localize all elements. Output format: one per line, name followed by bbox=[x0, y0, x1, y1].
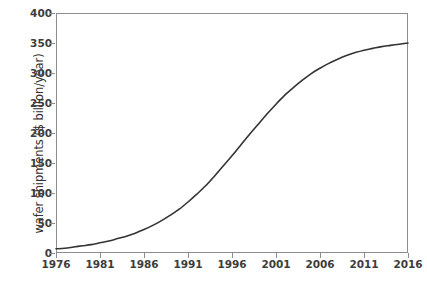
y-tick-mark bbox=[50, 253, 55, 254]
y-tick-mark bbox=[50, 103, 55, 104]
y-axis-ticks: 050100150200250300350400 bbox=[0, 0, 52, 287]
y-tick-label: 250 bbox=[6, 97, 52, 109]
plot-svg bbox=[56, 13, 408, 253]
y-tick-label: 200 bbox=[6, 127, 52, 139]
y-tick-label: 350 bbox=[6, 37, 52, 49]
y-tick-mark bbox=[50, 73, 55, 74]
y-tick-mark bbox=[50, 223, 55, 224]
data-series-line bbox=[56, 43, 408, 249]
y-tick-label: 400 bbox=[6, 7, 52, 19]
y-tick-label: 150 bbox=[6, 157, 52, 169]
y-tick-label: 300 bbox=[6, 67, 52, 79]
y-tick-label: 100 bbox=[6, 187, 52, 199]
y-tick-mark bbox=[50, 163, 55, 164]
y-tick-mark bbox=[50, 133, 55, 134]
y-tick-mark bbox=[50, 43, 55, 44]
y-tick-mark bbox=[50, 193, 55, 194]
chart-container: wafer shipments ($ billion/year) 0501001… bbox=[0, 0, 427, 287]
y-tick-mark bbox=[50, 13, 55, 14]
x-tick-label: 2016 bbox=[378, 258, 427, 270]
y-tick-label: 50 bbox=[6, 217, 52, 229]
